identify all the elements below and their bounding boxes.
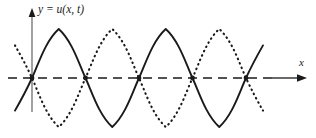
x-axis-arrowhead (297, 74, 307, 82)
y-axis-arrowhead (29, 8, 36, 17)
x-axis-label: x (299, 57, 304, 68)
node-marker (190, 76, 195, 81)
node-marker (30, 76, 35, 81)
standing-wave-figure: y = u(x, t) x (0, 0, 316, 138)
node-marker (137, 76, 142, 81)
wave-plot-svg (0, 0, 316, 138)
y-axis-label: y = u(x, t) (38, 4, 84, 16)
node-marker (244, 76, 249, 81)
node-marker (83, 76, 88, 81)
node-markers (30, 76, 249, 81)
